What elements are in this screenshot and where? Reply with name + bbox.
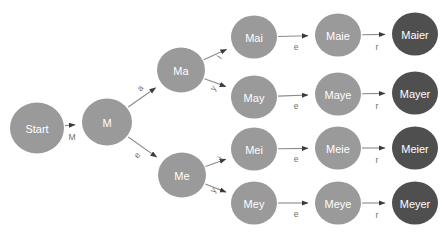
node-label-mei: Mei: [245, 144, 263, 156]
node-ma[interactable]: Ma: [157, 47, 205, 92]
edge-label-maie-to-maier: r: [376, 42, 379, 52]
node-mai[interactable]: Mai: [231, 15, 277, 58]
node-label-ma: Ma: [173, 65, 189, 77]
node-start[interactable]: Start: [10, 103, 64, 154]
nodes-layer: StartMMaMeMaiMayMeiMeyMaieMayeMeieMeyeMa…: [10, 12, 438, 224]
edge-label-ma-to-mai: i: [214, 53, 223, 60]
node-may[interactable]: May: [231, 75, 277, 118]
node-meie[interactable]: Meie: [315, 126, 361, 169]
node-label-mayer: Mayer: [400, 88, 431, 100]
edge-label-me-to-mey: y: [208, 185, 219, 195]
node-label-meye: Meye: [325, 198, 352, 210]
edge-label-ma-to-may: y: [208, 83, 219, 93]
node-label-maye: Maye: [325, 89, 352, 101]
edge-label-me-to-mei: i: [215, 154, 224, 161]
edge-label-mai-to-maie: e: [294, 42, 299, 52]
edge-label-mei-to-meie: e: [294, 154, 299, 164]
node-m[interactable]: M: [82, 99, 132, 146]
node-meye[interactable]: Meye: [315, 181, 361, 224]
node-mey[interactable]: Mey: [231, 181, 277, 224]
node-meier[interactable]: Meier: [392, 126, 438, 169]
node-maye[interactable]: Maye: [315, 72, 361, 115]
node-maie[interactable]: Maie: [315, 13, 361, 56]
node-mayer[interactable]: Mayer: [392, 71, 438, 114]
graph-svg: Maeiyiyeeeerrrr StartMMaMeMaiMayMeiMeyMa…: [0, 0, 442, 241]
edge-label-maye-to-mayer: r: [376, 101, 379, 111]
node-label-maie: Maie: [326, 30, 350, 42]
edge-may-to-maye: [278, 95, 308, 96]
diagram-canvas: Maeiyiyeeeerrrr StartMMaMeMaiMayMeiMeyMa…: [0, 0, 442, 241]
edge-label-start-to-m: M: [68, 132, 75, 142]
edge-label-m-to-ma: a: [135, 83, 146, 93]
edge-label-m-to-me: e: [132, 150, 143, 160]
edge-start-to-m: [65, 125, 75, 126]
node-maier[interactable]: Maier: [392, 12, 438, 55]
node-label-meie: Meie: [326, 143, 350, 155]
node-label-me: Me: [174, 170, 189, 182]
edge-label-mey-to-meye: e: [294, 209, 299, 219]
node-label-mey: Mey: [244, 198, 265, 210]
node-label-maier: Maier: [401, 29, 429, 41]
edge-label-meie-to-meier: r: [376, 155, 379, 165]
node-me[interactable]: Me: [158, 152, 206, 197]
node-meyer[interactable]: Meyer: [392, 181, 438, 224]
node-label-meier: Meier: [401, 143, 429, 155]
node-mei[interactable]: Mei: [231, 127, 277, 170]
edge-mai-to-maie: [278, 36, 308, 37]
node-label-start: Start: [25, 123, 48, 135]
node-label-mai: Mai: [245, 32, 263, 44]
node-label-meyer: Meyer: [400, 198, 431, 210]
node-label-may: May: [244, 92, 265, 104]
node-label-m: M: [102, 117, 111, 129]
edge-label-meye-to-meyer: r: [376, 210, 379, 220]
edge-label-may-to-maye: e: [294, 101, 299, 111]
